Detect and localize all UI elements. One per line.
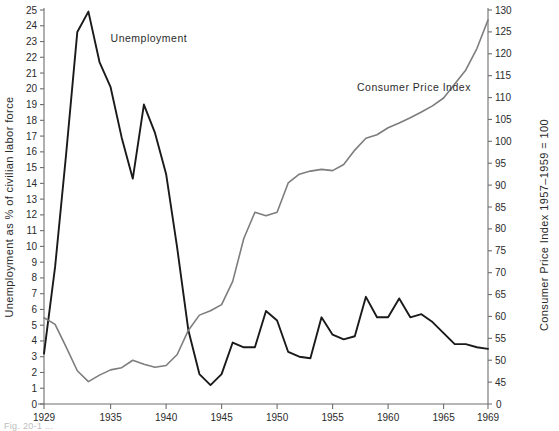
left-axis-tick-label: 14 bbox=[26, 178, 38, 189]
series-annotation: Consumer Price Index bbox=[357, 81, 471, 93]
left-axis-tick-label: 1 bbox=[31, 383, 37, 394]
left-axis-tick-label: 19 bbox=[26, 99, 38, 110]
left-axis-tick-label: 22 bbox=[26, 52, 38, 63]
left-axis-tick-label: 5 bbox=[31, 320, 37, 331]
right-axis-tick-label: 100 bbox=[495, 136, 512, 147]
left-axis-tick-label: 8 bbox=[31, 272, 37, 283]
right-axis-tick-label: 120 bbox=[495, 48, 512, 59]
right-axis-tick-label: 55 bbox=[495, 333, 507, 344]
right-axis-tick-label: 70 bbox=[495, 267, 507, 278]
series-annotation: Unemployment bbox=[111, 32, 188, 44]
left-axis-tick-label: 9 bbox=[31, 257, 37, 268]
right-axis-tick-label: 105 bbox=[495, 114, 512, 125]
left-axis-tick-label: 0 bbox=[31, 399, 37, 410]
chart-background bbox=[0, 0, 559, 431]
right-axis-tick-label: 50 bbox=[495, 355, 507, 366]
right-axis-tick-label: 0 bbox=[496, 399, 502, 410]
right-axis-tick-label: 110 bbox=[495, 92, 511, 103]
left-axis-tick-label: 3 bbox=[31, 351, 37, 362]
figure-caption: Fig. 20-1 ... bbox=[4, 421, 204, 431]
left-axis-tick-label: 21 bbox=[26, 68, 38, 79]
left-axis-tick-label: 20 bbox=[26, 83, 38, 94]
left-axis-tick-label: 2 bbox=[31, 367, 37, 378]
right-axis-tick-label: 90 bbox=[495, 180, 507, 191]
left-axis-tick-label: 10 bbox=[26, 241, 38, 252]
left-axis-tick-label: 24 bbox=[26, 20, 38, 31]
left-axis-tick-label: 6 bbox=[31, 304, 37, 315]
x-axis-tick-label: 1950 bbox=[266, 412, 289, 423]
chart-figure: 0123456789101112131415161718192021222324… bbox=[0, 0, 559, 431]
left-axis-title: Unemployment as % of civilian labor forc… bbox=[3, 96, 15, 317]
right-axis-title: Consumer Price Index 1957–1959 = 100 bbox=[538, 119, 550, 331]
right-axis-tick-label: 115 bbox=[495, 70, 511, 81]
right-axis-tick-label: 95 bbox=[495, 158, 507, 169]
line-chart-canvas: 0123456789101112131415161718192021222324… bbox=[0, 0, 559, 431]
left-axis-tick-label: 7 bbox=[31, 288, 37, 299]
x-axis-tick-label: 1960 bbox=[377, 412, 400, 423]
right-axis-tick-label: 45 bbox=[495, 377, 507, 388]
x-axis-tick-label: 1969 bbox=[477, 412, 500, 423]
left-axis-tick-label: 25 bbox=[26, 5, 38, 16]
x-axis-tick-label: 1955 bbox=[321, 412, 344, 423]
left-axis-tick-label: 11 bbox=[27, 225, 38, 236]
left-axis-tick-label: 4 bbox=[31, 335, 37, 346]
right-axis-tick-label: 75 bbox=[495, 245, 507, 256]
right-axis-tick-label: 125 bbox=[495, 26, 512, 37]
x-axis-tick-label: 1965 bbox=[432, 412, 455, 423]
left-axis-tick-label: 18 bbox=[26, 115, 38, 126]
left-axis-tick-label: 13 bbox=[26, 194, 38, 205]
x-axis-tick-label: 1945 bbox=[210, 412, 233, 423]
right-axis-tick-label: 60 bbox=[495, 311, 507, 322]
left-axis-tick-label: 17 bbox=[26, 131, 38, 142]
right-axis-tick-label: 65 bbox=[495, 289, 507, 300]
left-axis-tick-label: 12 bbox=[26, 209, 38, 220]
right-axis-tick-label: 85 bbox=[495, 202, 507, 213]
right-axis-tick-label: 130 bbox=[495, 5, 512, 16]
left-axis-tick-label: 16 bbox=[26, 146, 38, 157]
left-axis-tick-label: 15 bbox=[26, 162, 38, 173]
right-axis-tick-label: 80 bbox=[495, 223, 507, 234]
left-axis-tick-label: 23 bbox=[26, 36, 38, 47]
